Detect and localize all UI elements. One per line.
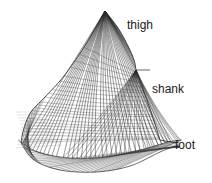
annotation-label-thigh: thigh [127, 19, 153, 32]
annotation-label-foot: foot [175, 139, 195, 152]
annotation-label-shank: shank [152, 83, 184, 96]
leg-wireframe-figure: thigh shank foot [0, 0, 212, 183]
